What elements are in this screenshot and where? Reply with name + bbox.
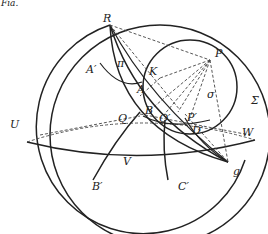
label-v: V [123, 155, 132, 168]
sphere-geometry-diagram: Fia. R P A′ π K A σ Σ U Q B Q′ P′ D′ W V [0, 0, 268, 234]
label-w: W [242, 126, 255, 139]
label-q: Q [118, 112, 127, 125]
label-a: A [136, 83, 145, 96]
label-b-prime: B′ [91, 180, 103, 193]
line-p-p-prime [178, 60, 210, 112]
label-r: R [102, 12, 111, 25]
label-g: g [233, 165, 240, 178]
label-u: U [10, 118, 20, 131]
sphere-outline [50, 25, 268, 234]
arc-b-prime [93, 112, 140, 180]
label-p-prime: P′ [186, 111, 197, 124]
label-pi: π [116, 57, 125, 70]
caption-fragment: Fia. [0, 0, 18, 8]
label-c-prime: C′ [178, 180, 189, 193]
diagram-canvas: Fia. R P A′ π K A σ Σ U Q B Q′ P′ D′ W V [0, 0, 268, 234]
line-p-q-prime [163, 60, 210, 116]
label-capital-sigma: Σ [250, 94, 259, 107]
equator-back [27, 123, 255, 142]
label-p: P [214, 47, 223, 60]
outer-sphere-left-arc [36, 25, 245, 234]
label-q-prime: Q′ [159, 112, 171, 125]
equator-front [27, 140, 255, 156]
label-b: B [144, 104, 153, 117]
label-a-prime: A′ [85, 63, 97, 76]
label-k: K [148, 65, 158, 78]
label-d-prime: D′ [191, 124, 204, 137]
label-sigma: σ [207, 88, 215, 101]
